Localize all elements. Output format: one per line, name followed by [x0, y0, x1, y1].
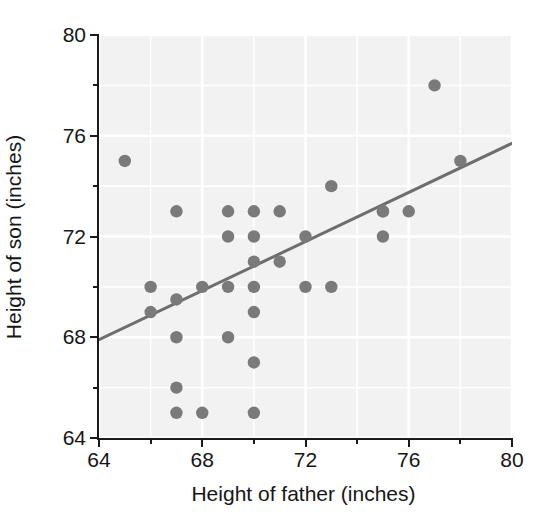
data-point — [248, 407, 260, 419]
y-tick-major — [90, 34, 99, 36]
data-point — [144, 306, 156, 318]
x-tick-label: 64 — [87, 448, 110, 472]
data-point — [248, 356, 260, 368]
y-tick-minor — [93, 84, 99, 86]
y-axis-title: Height of son (inches) — [0, 35, 28, 438]
x-tick-major — [201, 438, 203, 447]
data-point — [170, 381, 182, 393]
y-tick-major — [90, 236, 99, 238]
x-axis-title: Height of father (inches) — [97, 482, 510, 506]
data-point — [170, 293, 182, 305]
data-point — [196, 407, 208, 419]
data-point — [325, 281, 337, 293]
data-point — [248, 306, 260, 318]
data-point — [170, 407, 182, 419]
data-point — [222, 281, 234, 293]
data-point — [299, 230, 311, 242]
data-point — [377, 230, 389, 242]
data-point — [454, 155, 466, 167]
plot-area: 6468727680 6468727680 — [97, 35, 512, 440]
y-axis-title-text: Height of son (inches) — [2, 134, 26, 338]
x-tick-minor — [253, 438, 255, 444]
x-tick-label: 80 — [500, 448, 523, 472]
x-tick-major — [408, 438, 410, 447]
x-tick-label: 68 — [191, 448, 214, 472]
data-point — [273, 205, 285, 217]
data-point — [170, 205, 182, 217]
data-point — [119, 155, 131, 167]
y-tick-label: 76 — [63, 124, 86, 148]
data-point — [403, 205, 415, 217]
y-tick-minor — [93, 387, 99, 389]
data-point — [222, 331, 234, 343]
y-tick-major — [90, 135, 99, 137]
x-tick-major — [511, 438, 513, 447]
y-tick-label: 68 — [63, 325, 86, 349]
data-point — [325, 180, 337, 192]
data-point — [248, 230, 260, 242]
data-point — [299, 281, 311, 293]
data-point — [222, 230, 234, 242]
data-point — [196, 281, 208, 293]
x-tick-major — [98, 438, 100, 447]
x-tick-minor — [150, 438, 152, 444]
data-point — [170, 331, 182, 343]
x-tick-major — [305, 438, 307, 447]
data-point — [248, 205, 260, 217]
y-tick-minor — [93, 185, 99, 187]
y-tick-major — [90, 336, 99, 338]
x-tick-label: 72 — [294, 448, 317, 472]
data-point — [377, 205, 389, 217]
data-point — [273, 255, 285, 267]
data-point — [248, 255, 260, 267]
data-point — [222, 205, 234, 217]
x-tick-minor — [356, 438, 358, 444]
plot-canvas — [99, 35, 512, 438]
y-tick-minor — [93, 286, 99, 288]
data-point — [248, 281, 260, 293]
x-tick-label: 76 — [397, 448, 420, 472]
y-tick-label: 64 — [63, 426, 86, 450]
y-tick-label: 72 — [63, 225, 86, 249]
data-point — [428, 79, 440, 91]
x-tick-minor — [459, 438, 461, 444]
scatter-plot-figure: Height of son (inches) 6468727680 646872… — [0, 0, 545, 523]
y-tick-label: 80 — [63, 23, 86, 47]
data-point — [144, 281, 156, 293]
